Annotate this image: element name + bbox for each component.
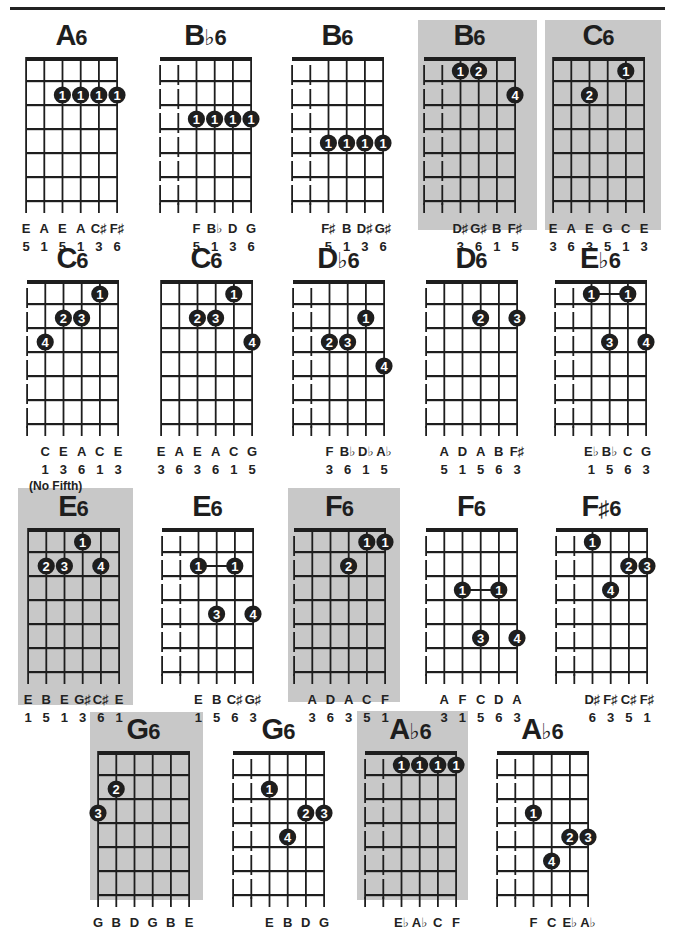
svg-text:1: 1 [59,88,66,103]
note-name: G [314,915,334,930]
fretboard: 1234 [283,278,404,438]
scale-degree: 5 [471,462,491,477]
scale-degree: 6 [338,462,358,477]
chord-suffix: 6 [341,25,353,50]
finger-dot: 1 [525,804,542,821]
svg-text:1: 1 [452,758,459,773]
chord-suffix: ♭6 [541,719,564,744]
svg-text:3: 3 [320,806,327,821]
finger-dot: 1 [376,533,393,550]
scale-degree: 1 [90,462,110,477]
fretboard: 1134 [545,278,666,438]
note-name: C [428,915,448,930]
svg-text:4: 4 [249,607,257,622]
finger-dot: 3 [73,309,90,326]
finger-dot: 2 [189,309,206,326]
note-name: F [319,444,339,459]
svg-text:1: 1 [530,806,537,821]
note-name: G♯ [373,221,393,236]
finger-dot: 1 [358,533,375,550]
note-name: E [259,915,279,930]
finger-dot: 4 [375,357,392,374]
chord-root: B [453,19,473,51]
note-name: B♭ [600,444,620,459]
finger-dot: 2 [321,333,338,350]
fretboard: 23 [416,278,537,438]
svg-text:1: 1 [457,64,464,79]
note-name: A [206,444,226,459]
svg-text:2: 2 [625,559,632,574]
svg-text:1: 1 [495,583,502,598]
svg-text:1: 1 [79,535,86,550]
note-name: G [241,221,261,236]
note-name: D [296,915,316,930]
chord-root: D [317,242,337,274]
finger-dot: 1 [452,62,469,79]
svg-text:4: 4 [511,88,519,103]
chord-suffix: 6 [283,719,295,744]
fretboard: 1111 [282,55,403,215]
finger-dot: 1 [54,86,71,103]
note-name: E [54,692,74,707]
chord-name: C6 [543,19,654,52]
fretboard: 1234 [151,278,272,438]
svg-text:1: 1 [398,758,405,773]
fretboard: 1111 [355,749,476,909]
scale-degree: 3 [636,462,656,477]
note-name: B [36,692,56,707]
note-name: A [434,692,454,707]
svg-text:3: 3 [477,631,484,646]
finger-dot: 3 [472,629,489,646]
finger-dot: 3 [579,828,596,845]
svg-text:1: 1 [193,112,200,127]
note-name: A♭ [410,915,430,930]
svg-text:2: 2 [113,782,120,797]
finger-dot: 3 [315,804,332,821]
note-name: F♯ [318,221,338,236]
finger-dot: 1 [411,756,428,773]
chord-name: D6 [416,242,527,275]
finger-dot: 1 [90,86,107,103]
scale-degree: 1 [35,462,55,477]
note-name: E [53,444,73,459]
note-name: E [16,221,36,236]
svg-text:2: 2 [586,88,593,103]
note-name: D [223,221,243,236]
scale-degree: 6 [489,462,509,477]
note-name: A [561,221,581,236]
svg-text:3: 3 [344,335,351,350]
note-name: F♯ [107,221,127,236]
svg-text:2: 2 [43,559,50,574]
scale-degree: 3 [53,462,73,477]
finger-dot: 2 [55,309,72,326]
chord-suffix: ♭6 [204,25,227,50]
chord-suffix: 6 [148,719,160,744]
note-name: G♯ [243,692,263,707]
note-name: G [598,221,618,236]
note-name: E [151,444,171,459]
svg-text:3: 3 [513,311,520,326]
scale-degree: 3 [187,462,207,477]
note-name: C♯ [89,221,109,236]
svg-text:1: 1 [230,287,237,302]
chord-suffix: ♭6 [337,248,360,273]
note-name: C [224,444,244,459]
fretboard: 1111 [16,55,137,215]
svg-text:1: 1 [459,583,466,598]
chord-name: F6 [284,490,395,523]
scale-degree: 1 [637,710,657,725]
svg-text:1: 1 [589,535,596,550]
scale-degree: 3 [319,462,339,477]
note-name: F [186,221,206,236]
note-name: F♯ [507,444,527,459]
svg-text:2: 2 [475,64,482,79]
note-name: G [88,915,108,930]
chord-root: A [389,713,409,745]
note-name: C [90,444,110,459]
chord-root: E [580,242,598,274]
note-name: B♭ [205,221,225,236]
note-name: C [35,444,55,459]
note-name: D [489,692,509,707]
svg-text:1: 1 [381,535,388,550]
fretboard: 1234 [18,526,139,686]
